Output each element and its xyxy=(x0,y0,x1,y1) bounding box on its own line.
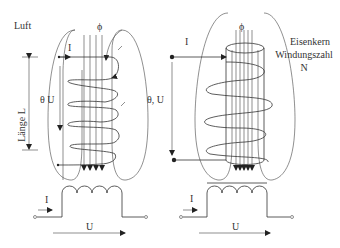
right-current-label: I xyxy=(185,36,188,47)
left-field-loop-right xyxy=(112,30,148,180)
left-symbol-voltage-label: U xyxy=(86,221,94,232)
medium-label: Luft xyxy=(14,20,31,31)
right-windings xyxy=(170,55,272,162)
core-label: Eisenkern xyxy=(290,36,330,47)
coil-diagram: Luft ϕ I θ U Länge L ϕ I xyxy=(0,0,340,248)
left-symbol-current-label: I xyxy=(45,194,48,205)
iron-core-coil xyxy=(170,13,295,180)
left-field-loop-left xyxy=(48,30,82,180)
air-coil xyxy=(22,30,148,180)
right-flux-lines xyxy=(236,30,252,170)
left-current-label: I xyxy=(68,42,71,53)
turns-label: Windungszahl xyxy=(275,49,333,60)
left-windings xyxy=(57,56,119,166)
left-flux-label: ϕ xyxy=(97,21,102,32)
turns-symbol: N xyxy=(300,62,307,73)
right-flux-label: ϕ xyxy=(239,21,244,32)
right-theta-u-label: θ, U xyxy=(147,94,165,105)
right-symbol-current-label: I xyxy=(190,193,193,204)
length-label: Länge L xyxy=(16,108,27,142)
right-symbol-voltage-label: U xyxy=(232,221,240,232)
left-theta-u-label: θ U xyxy=(40,94,55,105)
